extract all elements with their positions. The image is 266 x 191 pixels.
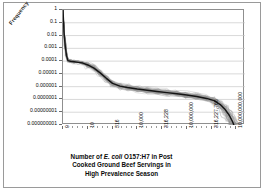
y-tick-label: 0.0000001 bbox=[33, 96, 57, 101]
y-tick-label: 0.00001 bbox=[39, 70, 57, 75]
x-minor-tick bbox=[116, 126, 117, 128]
y-tick-label: 0.01 bbox=[47, 32, 57, 37]
x-minor-tick bbox=[196, 126, 197, 128]
x-minor-tick bbox=[151, 126, 152, 128]
x-tick-label: 316,227,766 bbox=[213, 99, 219, 128]
y-tick-label: 0.000000001 bbox=[27, 121, 57, 126]
x-tick-mark bbox=[87, 126, 88, 129]
chart-frame: Frequency 10.10.010.0010.00010.000010.00… bbox=[3, 2, 261, 188]
x-minor-tick bbox=[171, 126, 172, 128]
x-minor-tick bbox=[126, 126, 127, 128]
x-tick-mark bbox=[112, 126, 113, 129]
x-minor-tick bbox=[176, 126, 177, 128]
y-tick-label: 1 bbox=[54, 6, 57, 11]
x-minor-tick bbox=[225, 126, 226, 128]
chart-title-line: Number of E. coli O157:H7 in Post bbox=[34, 153, 209, 161]
x-minor-tick bbox=[92, 126, 93, 128]
y-tick-label: 0.0001 bbox=[41, 57, 57, 62]
x-minor-tick bbox=[107, 126, 108, 128]
x-tick-mark bbox=[186, 126, 187, 129]
x-minor-tick bbox=[220, 126, 221, 128]
x-minor-tick bbox=[191, 126, 192, 128]
x-tick-mark bbox=[211, 126, 212, 129]
x-minor-tick bbox=[97, 126, 98, 128]
species-name: E. coli bbox=[104, 153, 123, 160]
x-minor-tick bbox=[102, 126, 103, 128]
chart-title: Number of E. coli O157:H7 in PostCooked … bbox=[34, 153, 209, 178]
x-minor-tick bbox=[206, 126, 207, 128]
x-minor-tick bbox=[216, 126, 217, 128]
x-tick-label: 10,000,000 bbox=[188, 102, 194, 128]
x-minor-tick bbox=[121, 126, 122, 128]
y-tick-mark bbox=[59, 124, 62, 125]
y-tick-label: 0.1 bbox=[50, 19, 57, 24]
x-minor-tick bbox=[156, 126, 157, 128]
y-tick-label: 0.001 bbox=[44, 45, 57, 50]
y-tick-label: 0.00000001 bbox=[30, 109, 57, 114]
x-minor-tick bbox=[141, 126, 142, 128]
x-tick-mark bbox=[62, 126, 63, 129]
x-minor-tick bbox=[72, 126, 73, 128]
x-minor-tick bbox=[77, 126, 78, 128]
x-minor-tick bbox=[131, 126, 132, 128]
x-minor-tick bbox=[82, 126, 83, 128]
x-minor-tick bbox=[230, 126, 231, 128]
x-minor-tick bbox=[67, 126, 68, 128]
x-minor-tick bbox=[146, 126, 147, 128]
x-minor-tick bbox=[181, 126, 182, 128]
chart-title-line: Cooked Ground Beef Servings in bbox=[34, 161, 209, 169]
y-tick-label: 0.000001 bbox=[36, 83, 57, 88]
x-minor-tick bbox=[201, 126, 202, 128]
x-tick-mark bbox=[161, 126, 162, 129]
x-minor-tick bbox=[166, 126, 167, 128]
y-axis-labels: 10.10.010.0010.00010.000010.0000010.0000… bbox=[4, 3, 60, 130]
x-tick-mark bbox=[235, 126, 236, 129]
x-tick-mark bbox=[136, 126, 137, 129]
x-tick-label: 10,000,000,000 bbox=[237, 92, 243, 128]
chart-title-line: High Prevalence Season bbox=[34, 170, 209, 178]
